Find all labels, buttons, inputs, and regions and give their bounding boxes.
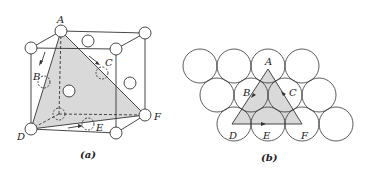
label-a-D: D [16, 131, 25, 142]
figure-a [25, 25, 151, 139]
label-a-F: F [153, 111, 162, 122]
label-a-E: E [95, 122, 104, 133]
label-b-C: C [289, 87, 297, 98]
crystal-diagram: A B C D E F (a) A B C D [0, 0, 371, 177]
caption-a: (a) [80, 149, 96, 160]
label-a-B: B [32, 71, 40, 82]
label-b-F: F [300, 130, 309, 141]
label-a-A: A [56, 14, 64, 25]
label-b-E: E [262, 130, 271, 141]
label-b-B: B [242, 87, 250, 98]
label-b-D: D [228, 130, 237, 141]
caption-b: (b) [261, 152, 278, 163]
label-b-A: A [264, 56, 272, 67]
label-a-C: C [105, 57, 113, 68]
